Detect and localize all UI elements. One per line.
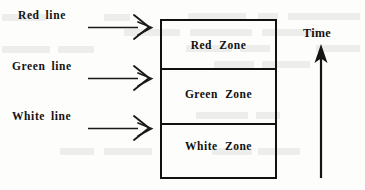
zone-box: Red Zone Green Zone White Zone <box>160 19 277 179</box>
zone-red: Red Zone <box>162 21 275 70</box>
zone-green: Green Zone <box>162 70 275 125</box>
label-red-line: Red line <box>18 9 66 21</box>
zone-diagram-figure: Red line Green line White line Red Zone <box>0 0 365 190</box>
time-axis-arrow-up-icon <box>306 44 336 178</box>
arrow-white-line-to-white-zone <box>88 113 158 137</box>
zone-red-label: Red Zone <box>191 39 247 51</box>
zone-white: White Zone <box>162 125 275 177</box>
time-axis-label: Time <box>303 26 331 41</box>
arrow-red-line-to-red-zone <box>88 12 158 36</box>
zone-white-label: White Zone <box>185 140 252 152</box>
arrow-green-line-to-green-zone <box>88 63 158 87</box>
label-white-line: White line <box>12 110 71 122</box>
label-green-line: Green line <box>12 60 72 72</box>
zone-green-label: Green Zone <box>185 88 252 100</box>
